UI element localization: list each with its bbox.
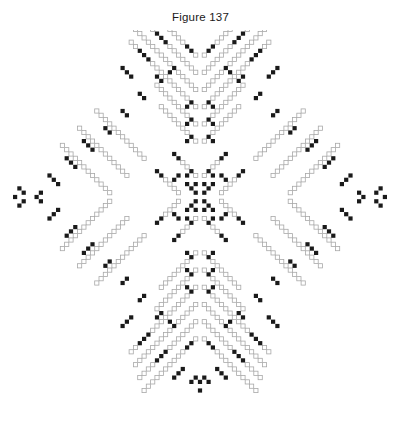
- open-bead: [211, 259, 215, 263]
- open-bead: [228, 44, 232, 48]
- filled-bead: [155, 32, 159, 36]
- filled-bead: [159, 36, 163, 40]
- open-bead: [207, 83, 211, 87]
- open-bead: [129, 143, 133, 147]
- open-bead: [215, 264, 219, 268]
- open-bead: [185, 311, 189, 315]
- open-bead: [237, 371, 241, 375]
- open-bead: [189, 324, 193, 328]
- filled-bead: [207, 49, 211, 53]
- filled-bead: [258, 298, 262, 302]
- filled-bead: [219, 234, 223, 238]
- open-bead: [241, 49, 245, 53]
- open-bead: [219, 191, 223, 195]
- open-bead: [90, 173, 94, 177]
- open-bead: [185, 130, 189, 134]
- open-bead: [288, 268, 292, 272]
- open-bead: [232, 333, 236, 337]
- beadwork-pattern-diagram: [0, 30, 401, 430]
- open-bead: [95, 178, 99, 182]
- open-bead: [284, 161, 288, 165]
- open-bead: [219, 70, 223, 74]
- filled-bead: [327, 229, 331, 233]
- open-bead: [176, 199, 180, 203]
- filled-bead: [52, 178, 56, 182]
- filled-bead: [73, 225, 77, 229]
- open-bead: [288, 191, 292, 195]
- open-bead: [224, 204, 228, 208]
- filled-bead: [241, 221, 245, 225]
- filled-bead: [361, 195, 365, 199]
- open-bead: [267, 350, 271, 354]
- open-bead: [172, 49, 176, 53]
- open-bead: [194, 173, 198, 177]
- filled-bead: [194, 182, 198, 186]
- open-bead: [172, 186, 176, 190]
- filled-bead: [198, 388, 202, 392]
- filled-bead: [125, 320, 129, 324]
- filled-bead: [185, 251, 189, 255]
- open-bead: [176, 70, 180, 74]
- filled-bead: [237, 216, 241, 220]
- open-bead: [202, 105, 206, 109]
- open-bead: [99, 182, 103, 186]
- filled-bead: [344, 212, 348, 216]
- open-bead: [172, 32, 176, 36]
- open-bead: [305, 216, 309, 220]
- open-bead: [228, 182, 232, 186]
- open-bead: [116, 130, 120, 134]
- open-bead: [241, 341, 245, 345]
- open-bead: [164, 212, 168, 216]
- filled-bead: [224, 376, 228, 380]
- filled-bead: [211, 105, 215, 109]
- open-bead: [142, 156, 146, 160]
- filled-bead: [207, 341, 211, 345]
- figure-page: Figure 137: [0, 0, 401, 430]
- open-bead: [86, 255, 90, 259]
- open-bead: [262, 30, 266, 31]
- open-bead: [155, 324, 159, 328]
- open-bead: [112, 229, 116, 233]
- open-bead: [133, 148, 137, 152]
- open-bead: [155, 307, 159, 311]
- open-bead: [258, 32, 262, 36]
- open-bead: [207, 66, 211, 70]
- open-bead: [211, 113, 215, 117]
- open-bead: [301, 109, 305, 113]
- filled-bead: [207, 204, 211, 208]
- filled-bead: [379, 186, 383, 190]
- filled-bead: [207, 221, 211, 225]
- open-bead: [219, 337, 223, 341]
- filled-bead: [189, 204, 193, 208]
- open-bead: [95, 247, 99, 251]
- open-bead: [202, 320, 206, 324]
- open-bead: [181, 315, 185, 319]
- open-bead: [116, 259, 120, 263]
- open-bead: [301, 247, 305, 251]
- open-bead: [108, 199, 112, 203]
- open-bead: [232, 212, 236, 216]
- open-bead: [168, 182, 172, 186]
- open-bead: [288, 122, 292, 126]
- open-bead: [194, 337, 198, 341]
- filled-bead: [211, 268, 215, 272]
- filled-bead: [232, 350, 236, 354]
- open-bead: [275, 135, 279, 139]
- filled-bead: [47, 173, 51, 177]
- open-bead: [164, 315, 168, 319]
- open-bead: [168, 96, 172, 100]
- open-bead: [176, 36, 180, 40]
- open-bead: [194, 105, 198, 109]
- filled-bead: [56, 208, 60, 212]
- open-bead: [202, 251, 206, 255]
- open-bead: [323, 156, 327, 160]
- open-bead: [146, 384, 150, 388]
- open-bead: [254, 234, 258, 238]
- open-bead: [65, 242, 69, 246]
- filled-bead: [176, 156, 180, 160]
- open-bead: [176, 285, 180, 289]
- filled-bead: [340, 208, 344, 212]
- filled-bead: [194, 376, 198, 380]
- open-bead: [202, 268, 206, 272]
- filled-bead: [65, 234, 69, 238]
